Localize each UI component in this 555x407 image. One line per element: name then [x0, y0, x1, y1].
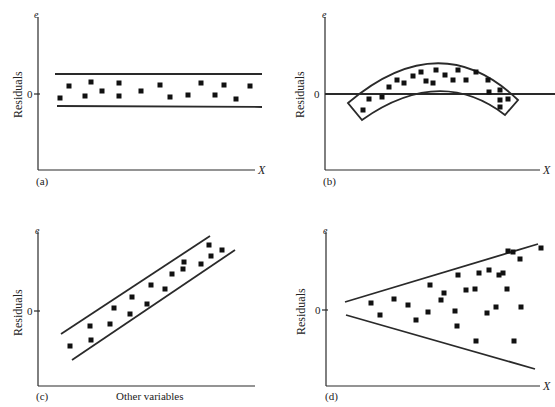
- data-point: [361, 108, 366, 113]
- data-point: [414, 318, 419, 323]
- data-point: [443, 73, 448, 78]
- data-point: [501, 271, 506, 276]
- data-point: [130, 295, 135, 300]
- data-point: [506, 97, 511, 102]
- lower-band-line: [57, 106, 262, 107]
- upper-band-line: [61, 236, 210, 334]
- data-point: [58, 96, 63, 101]
- data-point: [453, 309, 458, 314]
- data-point: [431, 81, 436, 86]
- y-axis-label: Residuals: [11, 71, 25, 118]
- data-point: [369, 301, 374, 306]
- data-point: [519, 305, 524, 310]
- data-point: [387, 85, 392, 90]
- data-point: [367, 97, 372, 102]
- panel-tag: (b): [323, 175, 336, 188]
- data-point: [68, 344, 73, 349]
- panel-tag: (c): [36, 390, 49, 403]
- data-point: [186, 93, 191, 98]
- data-point: [539, 246, 544, 251]
- data-point: [163, 287, 168, 292]
- data-point: [439, 298, 444, 303]
- data-point: [464, 78, 469, 83]
- data-point: [424, 79, 429, 84]
- data-point: [117, 94, 122, 99]
- data-point: [199, 262, 204, 267]
- zero-label: 0: [314, 88, 320, 100]
- data-point: [220, 248, 225, 253]
- panel-b: e 0 X (b) Residuals: [293, 9, 555, 188]
- x-axis-label: Other variables: [116, 390, 184, 402]
- panel-a: e 0 X (a) Residuals: [11, 9, 266, 188]
- data-point: [512, 339, 517, 344]
- data-points: [361, 68, 511, 113]
- data-point: [411, 74, 416, 79]
- data-point: [406, 303, 411, 308]
- data-point: [395, 78, 400, 83]
- data-point: [222, 83, 227, 88]
- zero-label: 0: [27, 88, 33, 100]
- data-point: [67, 84, 72, 89]
- data-point: [428, 283, 433, 288]
- data-point: [498, 98, 503, 103]
- data-point: [451, 78, 456, 83]
- lower-funnel-line: [346, 315, 535, 369]
- data-point: [181, 267, 186, 272]
- x-axis-symbol: X: [257, 163, 266, 177]
- panel-tag: (a): [36, 175, 49, 188]
- data-points: [68, 243, 225, 349]
- data-point: [182, 260, 187, 265]
- y-axis-symbol: e: [323, 225, 328, 236]
- x-axis-symbol: X: [542, 163, 551, 177]
- data-point: [498, 88, 503, 93]
- data-point: [494, 305, 499, 310]
- y-axis-symbol: e: [34, 9, 39, 20]
- data-point: [139, 89, 144, 94]
- data-point: [83, 94, 88, 99]
- data-point: [117, 81, 122, 86]
- data-point: [474, 339, 479, 344]
- data-point: [455, 324, 460, 329]
- data-point: [477, 271, 482, 276]
- data-point: [442, 291, 447, 296]
- data-point: [392, 297, 397, 302]
- data-point: [464, 288, 469, 293]
- data-point: [426, 310, 431, 315]
- data-point: [487, 268, 492, 273]
- data-point: [112, 306, 117, 311]
- data-point: [100, 89, 105, 94]
- x-axis-symbol: X: [542, 379, 551, 393]
- data-point: [402, 81, 407, 86]
- y-axis-label: Residuals: [293, 71, 307, 118]
- data-point: [145, 302, 150, 307]
- data-point: [506, 249, 511, 254]
- panel-d: e 0 X (d) Residuals: [294, 225, 551, 403]
- data-point: [89, 338, 94, 343]
- data-point: [149, 283, 154, 288]
- data-point: [486, 78, 491, 83]
- zero-label: 0: [315, 304, 321, 316]
- zero-label: 0: [27, 305, 33, 317]
- data-point: [473, 287, 478, 292]
- data-point: [485, 311, 490, 316]
- data-point: [108, 322, 113, 327]
- y-axis-label: Residuals: [11, 289, 25, 336]
- data-point: [380, 95, 385, 100]
- data-point: [378, 313, 383, 318]
- data-point: [456, 68, 461, 73]
- lower-band-line: [72, 250, 235, 360]
- data-point: [456, 273, 461, 278]
- data-point: [419, 70, 424, 75]
- data-point: [158, 83, 163, 88]
- data-point: [498, 105, 503, 110]
- y-axis-label: Residuals: [294, 288, 308, 335]
- data-point: [170, 272, 175, 277]
- data-point: [168, 95, 173, 100]
- residual-plots-figure: e 0 X (a) Residuals e 0 X (b) Residuals …: [0, 0, 555, 407]
- data-point: [213, 93, 218, 98]
- data-point: [487, 90, 492, 95]
- data-point: [474, 70, 479, 75]
- data-point: [88, 324, 93, 329]
- data-point: [248, 84, 253, 89]
- data-point: [128, 312, 133, 317]
